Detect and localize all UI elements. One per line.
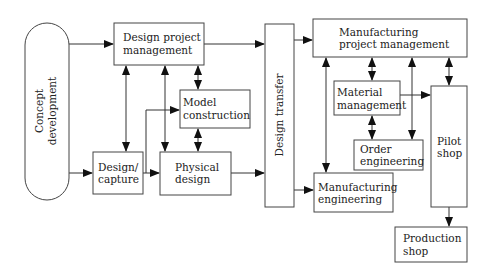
node-pilot-shop[interactable]: Pilot shop (431, 86, 467, 207)
node-manufacturing-project-management[interactable]: Manufacturing project management (313, 19, 467, 57)
node-label-mpm-line1: Manufacturing (339, 26, 419, 38)
node-label-physical-line2: design (175, 173, 210, 185)
node-label-order-line1: Order (360, 143, 393, 155)
node-label-mfgeng-line2: engineering (318, 193, 382, 205)
node-manufacturing-engineering[interactable]: Manufacturing engineering (314, 173, 398, 212)
node-label-dpm-line2: management (123, 44, 193, 56)
process-flow-diagram: Concept development Design project manag… (0, 0, 489, 277)
node-label-model-line2: construction (183, 109, 250, 121)
node-label-order-line2: engineering (360, 155, 424, 167)
node-label-production-line1: Production (403, 232, 462, 244)
node-label-transfer: Design transfer (273, 73, 285, 157)
node-label-production-line2: shop (403, 245, 428, 257)
node-design-capture[interactable]: Design/ capture (93, 152, 143, 194)
node-label-mfgeng-line1: Manufacturing (318, 181, 398, 193)
node-label-material-line2: management (337, 99, 407, 111)
node-model-construction[interactable]: Model construction (180, 90, 250, 128)
node-concept-development[interactable]: Concept development (25, 23, 69, 200)
node-physical-design[interactable]: Physical design (160, 152, 231, 195)
node-label-pilot-line2: shop (437, 147, 462, 159)
node-label-pilot-line1: Pilot (437, 135, 462, 147)
node-label-dpm-line1: Design project (123, 31, 202, 43)
node-label-concept-line2: development (46, 76, 58, 145)
node-label-mpm-line2: project management (339, 38, 450, 50)
node-design-transfer[interactable]: Design transfer (265, 24, 294, 207)
node-label-material-line1: Material (337, 86, 383, 98)
node-label-physical-line1: Physical (175, 161, 220, 173)
node-order-engineering[interactable]: Order engineering (354, 140, 424, 170)
node-material-management[interactable]: Material management (334, 81, 407, 115)
node-production-shop[interactable]: Production shop (395, 227, 467, 262)
node-label-capture-line1: Design/ (98, 161, 139, 173)
node-design-project-management[interactable]: Design project management (114, 23, 204, 65)
node-label-concept-line1: Concept (33, 88, 45, 133)
node-label-capture-line2: capture (98, 173, 139, 185)
node-label-model-line1: Model (183, 96, 217, 108)
